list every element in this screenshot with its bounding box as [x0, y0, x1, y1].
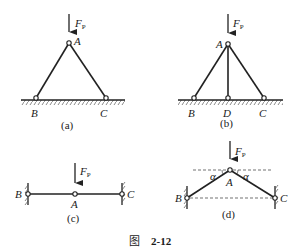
load-label-c: FP [79, 165, 91, 179]
panel-c: FP B A C (c) [15, 163, 135, 225]
angle-arc-right [237, 170, 238, 174]
node-label-A: A [225, 176, 233, 188]
node-label-B: B [15, 188, 22, 200]
angle-arc-left [222, 170, 223, 174]
pin-B [26, 192, 30, 196]
pin-B [192, 96, 196, 100]
load-label-a: FP [74, 17, 86, 31]
bar-AC [69, 43, 106, 98]
figure-caption: 图 2-12 [129, 235, 172, 247]
pin-A [226, 42, 230, 46]
node-label-C: C [259, 107, 267, 119]
pin-A [228, 168, 232, 172]
load-label-d: FP [234, 145, 246, 159]
pin-C [273, 196, 277, 200]
node-label-C: C [127, 188, 135, 200]
pin-B [34, 96, 38, 100]
node-label-A: A [70, 198, 78, 210]
ground-support-a [21, 100, 125, 105]
bar-AC [230, 170, 275, 198]
bar-AB [36, 43, 69, 98]
pin-A [73, 192, 77, 196]
node-label-B: B [175, 192, 182, 204]
panel-d: FP α α A B C (d) [175, 141, 288, 221]
bar-AC [228, 44, 264, 98]
load-label-b: FP [232, 17, 244, 31]
panel-b: FP A B D C (b) [178, 14, 283, 130]
figure-caption-number: 2-12 [151, 235, 172, 247]
node-label-A: A [73, 35, 81, 47]
panel-caption-d: (d) [222, 208, 235, 221]
bar-AB [194, 44, 228, 98]
angle-label-left: α [210, 170, 216, 182]
pin-A [67, 41, 71, 45]
ground-support-b [178, 100, 283, 105]
panel-caption-a: (a) [61, 119, 74, 132]
panel-caption-c: (c) [67, 212, 80, 225]
node-label-C: C [100, 107, 108, 119]
panel-caption-b: (b) [220, 117, 233, 130]
node-label-B: B [31, 107, 38, 119]
figure-caption-prefix: 图 [129, 235, 140, 247]
bar-AB [187, 170, 230, 198]
node-label-A: A [215, 38, 223, 50]
pin-C [120, 192, 124, 196]
pin-C [262, 96, 266, 100]
node-label-C: C [280, 192, 288, 204]
node-label-B: B [188, 107, 195, 119]
angle-label-right: α [243, 170, 249, 182]
pin-B [185, 196, 189, 200]
pin-D [226, 96, 230, 100]
pin-C [104, 96, 108, 100]
figure-2-12: FP A B C (a) FP A B D C (b) [0, 0, 296, 252]
panel-a: FP A B C (a) [21, 14, 125, 132]
